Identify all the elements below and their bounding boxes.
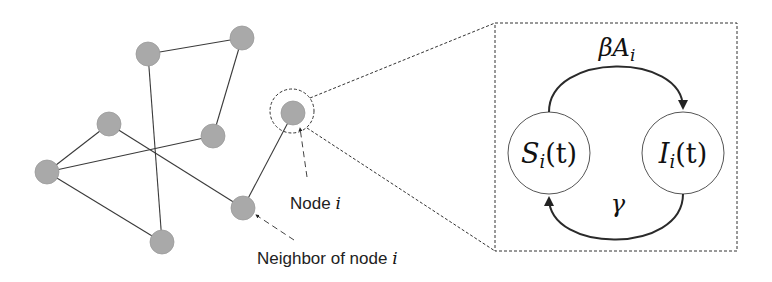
node-b — [230, 26, 254, 50]
node-i-pointer-arrow — [300, 128, 307, 177]
node-i — [281, 101, 305, 125]
edge-b-d — [213, 38, 242, 136]
neighbor-label: Neighbor of node i — [257, 248, 398, 268]
diagram-canvas: Node i Neighbor of node i Si(t) Ii(t) βA… — [0, 0, 772, 282]
node-e — [35, 160, 59, 184]
edge-e-d — [47, 136, 213, 172]
zoom-line-bottom — [307, 128, 495, 251]
network-nodes — [35, 26, 305, 254]
edge-e-g — [47, 172, 162, 242]
infection-rate-label: βAi — [598, 34, 636, 65]
infection-transition-arrow — [549, 66, 683, 112]
edge-a-b — [148, 38, 242, 54]
node-c — [97, 112, 121, 136]
edge-f-i — [243, 113, 293, 208]
node-i-label: Node i — [290, 193, 341, 213]
network-edges — [47, 38, 293, 242]
neighbor-pointer-arrow — [256, 215, 294, 240]
infected-label: Ii(t) — [658, 138, 707, 172]
node-d — [201, 124, 225, 148]
susceptible-label: Si(t) — [521, 138, 577, 172]
node-a — [136, 42, 160, 66]
zoom-line-top — [310, 23, 495, 98]
node-g — [150, 230, 174, 254]
recovery-rate-label: γ — [611, 190, 626, 218]
node-neighbor — [231, 196, 255, 220]
